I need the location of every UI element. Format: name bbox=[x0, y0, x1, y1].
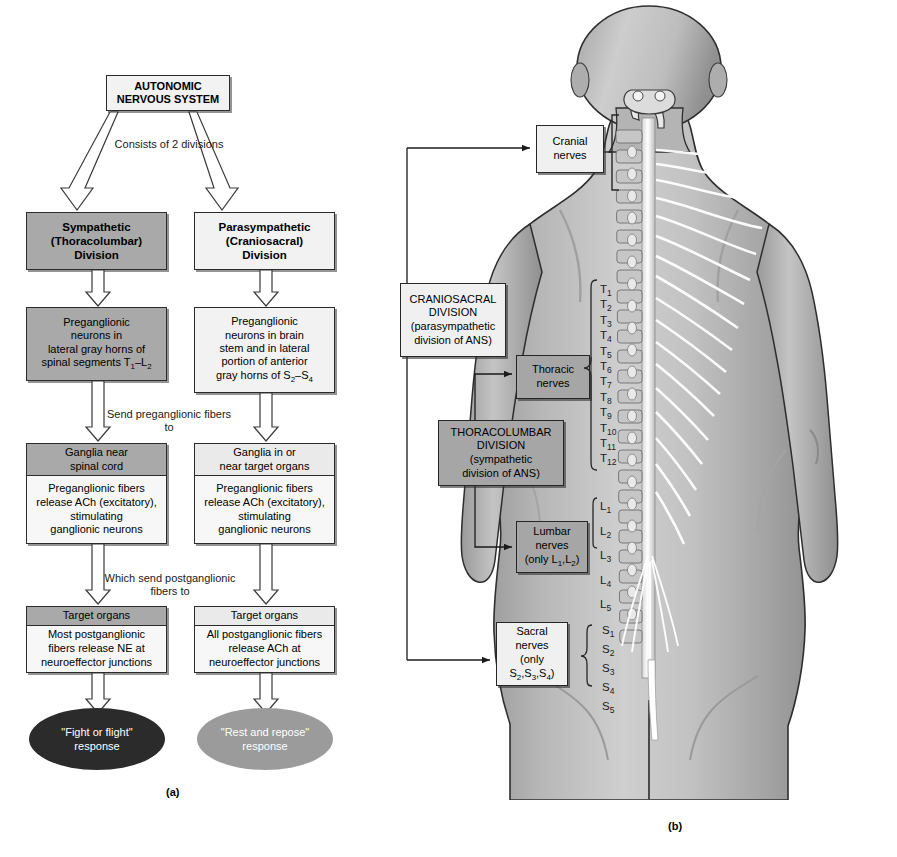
para-preganglionic-line-1: Preganglionic bbox=[231, 315, 298, 328]
fight-flight-line-2: response bbox=[74, 739, 119, 753]
para-target-header-text: Target organs bbox=[231, 609, 298, 622]
rest-repose-line-2: response bbox=[242, 739, 287, 753]
arrow-parasympathetic-division-to-preganglionic bbox=[252, 270, 280, 308]
panel-b: Cranial nerves CRANIOSACRAL DIVISION (pa… bbox=[390, 0, 897, 857]
sym-target-body-line-3: neuroeffector junctions bbox=[41, 656, 152, 670]
arrow-split-to-divisions bbox=[55, 110, 285, 216]
para-ganglia-header-line-2: near target organs bbox=[220, 460, 310, 473]
sympathetic-division-line-1: Sympathetic bbox=[62, 220, 130, 234]
para-ganglia-body-line-4: ganglionic neurons bbox=[218, 523, 310, 537]
sympathetic-ganglia-box: Ganglia near spinal cord Preganglionic f… bbox=[26, 443, 167, 544]
sympathetic-ganglia-header: Ganglia near spinal cord bbox=[27, 444, 166, 476]
panel-a-caption: (a) bbox=[166, 786, 179, 798]
sympathetic-division-box: Sympathetic (Thoracolumbar) Division bbox=[26, 212, 167, 270]
sym-ganglia-body-line-3: stimulating bbox=[70, 510, 123, 524]
para-ganglia-body-line-2: release ACh (excitatory), bbox=[204, 496, 324, 510]
sym-ganglia-header-line-2: spinal cord bbox=[70, 460, 123, 473]
sym-preganglionic-line-3: lateral gray horns of bbox=[48, 343, 145, 356]
para-ganglia-header-line-1: Ganglia in or bbox=[233, 446, 295, 459]
sympathetic-target-organs-box: Target organs Most postganglionic fibers… bbox=[26, 606, 167, 673]
para-preganglionic-line-4: portion of anterior bbox=[221, 355, 307, 368]
parasympathetic-target-organs-box: Target organs All postganglionic fibers … bbox=[194, 606, 335, 673]
parasympathetic-division-line-1: Parasympathetic bbox=[218, 220, 310, 234]
connector-label-consists-of-divisions: Consists of 2 divisions bbox=[97, 138, 241, 151]
parasympathetic-division-line-2: (Craniosacral) bbox=[226, 234, 303, 248]
connector-label-send-preganglionic-fibers: Send preganglionic fibers to bbox=[101, 408, 237, 435]
parasympathetic-division-box: Parasympathetic (Craniosacral) Division bbox=[194, 212, 335, 270]
sympathetic-division-line-3: Division bbox=[74, 248, 119, 262]
which-send-line-1: Which send postganglionic bbox=[105, 572, 236, 584]
sym-preganglionic-line-1: Preganglionic bbox=[63, 316, 130, 329]
which-send-line-2: fibers to bbox=[150, 585, 189, 597]
sym-ganglia-body-line-1: Preganglionic fibers bbox=[48, 482, 145, 496]
fight-flight-line-1: "Fight or flight" bbox=[61, 725, 132, 739]
para-target-body-line-2: release ACh at bbox=[228, 642, 300, 656]
parasympathetic-response-ellipse: "Rest and repose" response bbox=[197, 708, 333, 770]
arrow-parasympathetic-preganglionic-to-ganglia bbox=[252, 393, 280, 443]
sym-target-body-line-1: Most postganglionic bbox=[48, 628, 145, 642]
sym-preganglionic-line-2: neurons in bbox=[71, 329, 122, 342]
parasympathetic-target-body: All postganglionic fibers release ACh at… bbox=[195, 626, 334, 672]
sympathetic-ganglia-body: Preganglionic fibers release ACh (excita… bbox=[27, 476, 166, 543]
parasympathetic-preganglionic-box: Preganglionic neurons in brain stem and … bbox=[194, 307, 335, 393]
parasympathetic-division-line-3: Division bbox=[242, 248, 287, 262]
arrow-sympathetic-division-to-preganglionic bbox=[84, 270, 112, 308]
para-preganglionic-line-2: neurons in brain bbox=[225, 329, 304, 342]
para-ganglia-body-line-3: stimulating bbox=[238, 510, 291, 524]
sym-ganglia-body-line-2: release ACh (excitatory), bbox=[36, 496, 156, 510]
sympathetic-response-ellipse: "Fight or flight" response bbox=[29, 708, 165, 770]
sym-ganglia-header-line-1: Ganglia near bbox=[65, 446, 128, 459]
para-target-body-line-3: neuroeffector junctions bbox=[209, 656, 320, 670]
para-ganglia-body-line-1: Preganglionic fibers bbox=[216, 482, 313, 496]
sym-preganglionic-line-4: spinal segments T1–L2 bbox=[41, 356, 151, 372]
para-target-body-line-1: All postganglionic fibers bbox=[207, 628, 323, 642]
sympathetic-division-line-2: (Thoracolumbar) bbox=[51, 234, 142, 248]
parasympathetic-ganglia-box: Ganglia in or near target organs Pregang… bbox=[194, 443, 335, 544]
panel-b-caption: (b) bbox=[668, 820, 682, 832]
sym-target-header-text: Target organs bbox=[63, 609, 130, 622]
parasympathetic-ganglia-body: Preganglionic fibers release ACh (excita… bbox=[195, 476, 334, 543]
parasympathetic-ganglia-header: Ganglia in or near target organs bbox=[195, 444, 334, 476]
connector-label-which-send-postganglionic: Which send postganglionic fibers to bbox=[94, 572, 246, 599]
para-preganglionic-line-3: stem and in lateral bbox=[220, 342, 310, 355]
parasympathetic-target-header: Target organs bbox=[195, 607, 334, 626]
arrow-parasympathetic-ganglia-to-target bbox=[252, 544, 280, 606]
title-box-autonomic-nervous-system: AUTONOMIC NERVOUS SYSTEM bbox=[106, 75, 230, 111]
sympathetic-target-body: Most postganglionic fibers release NE at… bbox=[27, 626, 166, 672]
sym-ganglia-body-line-4: ganglionic neurons bbox=[50, 523, 142, 537]
title-line-1: AUTONOMIC bbox=[134, 80, 202, 93]
title-line-2: NERVOUS SYSTEM bbox=[117, 93, 220, 106]
send-pre-line-1: Send preganglionic bbox=[107, 408, 201, 420]
sym-target-body-line-2: fibers release NE at bbox=[48, 642, 145, 656]
para-preganglionic-line-5: gray horns of S2–S4 bbox=[216, 369, 313, 385]
rest-repose-line-1: "Rest and repose" bbox=[221, 725, 310, 739]
sympathetic-target-header: Target organs bbox=[27, 607, 166, 626]
vertebral-brackets bbox=[390, 0, 897, 800]
sympathetic-preganglionic-box: Preganglionic neurons in lateral gray ho… bbox=[26, 307, 167, 381]
